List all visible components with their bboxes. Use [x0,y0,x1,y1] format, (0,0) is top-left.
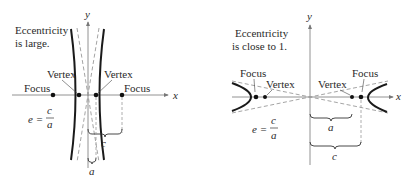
right-focus-right-leader [362,79,364,92]
right-brace-a [310,114,352,121]
right-vertex-left-leader [267,90,272,95]
left-hyperbola-branch-left [71,29,76,160]
right-brace-c-label: c [332,150,337,162]
right-formula-lhs: e = [252,123,267,135]
right-caption-line1: Eccentricity [235,27,289,39]
right-focus-right-point [359,95,364,100]
right-hyperbola-branch-right [368,84,387,112]
left-caption-line2: is large. [15,37,50,49]
right-focus-right-label: Focus [352,67,378,79]
left-formula-num: c [47,104,52,116]
left-formula-lhs: e = [28,113,43,125]
left-focus-right-label: Focus [124,82,150,94]
right-x-axis-label: x [395,90,401,102]
right-vertex-left-point [263,95,267,99]
right-vertex-right-point [350,95,354,99]
right-eccentricity-formula: e = c a [252,114,278,141]
left-panel-large-eccentricity: Eccentricity is large. x y Vertex Vertex… [12,8,178,177]
left-focus-left-point [51,93,56,98]
left-brace-a-label: a [89,165,95,177]
left-brace-a [88,158,96,164]
left-vertex-left-label: Vertex [47,68,76,80]
left-x-axis-label: x [172,89,178,101]
left-caption-line1: Eccentricity [15,24,69,36]
left-formula-den: a [47,118,53,130]
left-y-axis-label: y [84,8,90,20]
eccentricity-diagram: Eccentricity is large. x y Vertex Vertex… [0,0,410,181]
right-brace-a-label: a [328,121,334,133]
right-formula-num: c [271,114,276,126]
right-vertex-right-label: Vertex [318,78,347,90]
left-brace-c [88,129,122,137]
left-brace-c-label: c [101,137,106,149]
right-y-axis-label: y [306,10,312,22]
left-vertex-right-label: Vertex [104,68,133,80]
left-eccentricity-formula: e = c a [28,104,54,130]
right-formula-den: a [271,129,277,141]
right-focus-left-label: Focus [240,67,266,79]
right-vertex-right-leader [340,90,350,95]
right-caption-line2: is close to 1. [232,40,287,52]
left-focus-left-label: Focus [24,82,50,94]
right-focus-left-point [254,95,259,100]
right-panel-eccentricity-near-one: Eccentricity is close to 1. x y Focus Ve… [232,10,401,165]
right-vertex-left-label: Vertex [266,78,295,90]
right-brace-c [310,142,361,149]
